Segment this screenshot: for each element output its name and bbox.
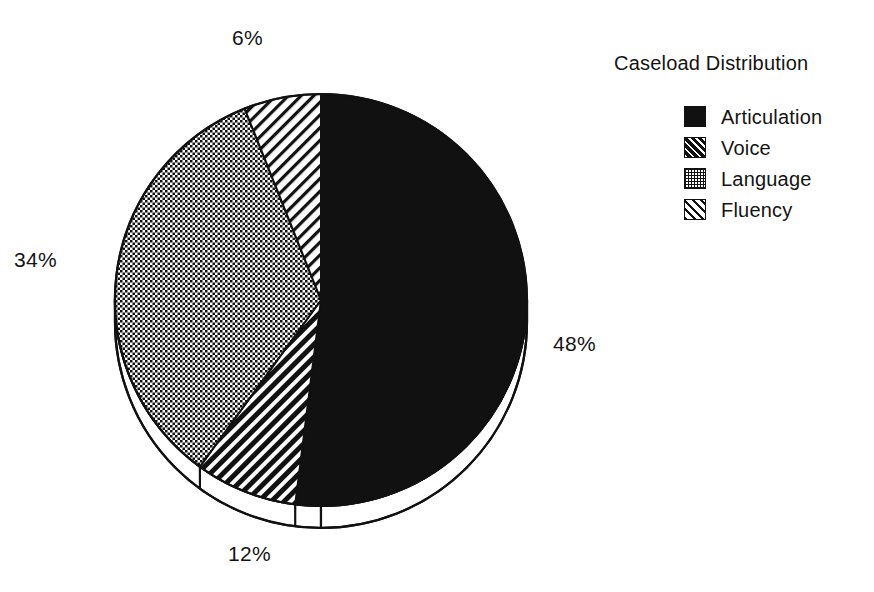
legend-title: Caseload Distribution xyxy=(614,52,864,75)
pie-chart: 6% 34% 48% 12% xyxy=(0,0,600,592)
pie-slice-articulation[interactable] xyxy=(295,94,527,506)
pie-chart-svg xyxy=(0,0,600,592)
legend: Caseload Distribution Articulation Voice… xyxy=(614,52,864,225)
dense-hatch-swatch-icon xyxy=(684,137,706,158)
pie-label-articulation-percent: 48% xyxy=(553,332,596,356)
sparse-hatch-swatch-icon xyxy=(684,199,706,220)
legend-item-label: Fluency xyxy=(721,200,792,220)
pie-slices xyxy=(115,94,527,506)
legend-item-language[interactable]: Language xyxy=(684,163,864,194)
pie-label-voice-percent: 12% xyxy=(228,542,271,566)
legend-item-label: Language xyxy=(721,169,812,189)
pie-label-fluency-percent: 6% xyxy=(232,26,263,50)
legend-item-label: Voice xyxy=(721,138,771,158)
legend-item-label: Articulation xyxy=(721,107,822,127)
legend-item-list: Articulation Voice Language Fluency xyxy=(684,101,864,225)
chart-page: 6% 34% 48% 12% Caseload Distribution Art… xyxy=(0,0,874,592)
pie-label-language-percent: 34% xyxy=(14,248,57,272)
legend-item-articulation[interactable]: Articulation xyxy=(684,101,864,132)
legend-item-voice[interactable]: Voice xyxy=(684,132,864,163)
legend-item-fluency[interactable]: Fluency xyxy=(684,194,864,225)
stipple-swatch-icon xyxy=(684,168,706,189)
solid-black-swatch-icon xyxy=(684,106,706,127)
